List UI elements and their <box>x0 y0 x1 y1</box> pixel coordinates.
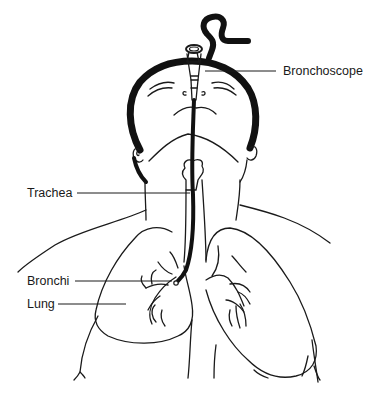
right-lung <box>206 228 316 377</box>
label-trachea: Trachea <box>27 186 72 200</box>
label-lung: Lung <box>27 297 55 311</box>
label-bronchi: Bronchi <box>27 274 69 288</box>
bronchoscope-tube <box>174 45 202 285</box>
bronchoscope-cable <box>204 17 248 58</box>
bronchoscopy-diagram: Bronchoscope Trachea Bronchi Lung <box>0 0 378 398</box>
torso <box>74 316 320 382</box>
left-lung <box>95 228 193 343</box>
label-bronchoscope: Bronchoscope <box>283 64 363 78</box>
